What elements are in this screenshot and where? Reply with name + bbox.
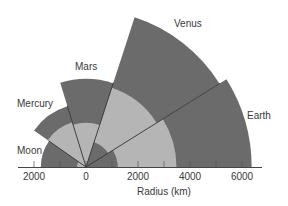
label-mars: Mars — [75, 62, 97, 72]
tick-label: 2000 — [23, 172, 45, 182]
tick-label: 6000 — [231, 172, 253, 182]
label-earth: Earth — [247, 111, 271, 121]
axis-title: Radius (km) — [137, 187, 191, 197]
label-mercury: Mercury — [17, 99, 53, 109]
tick-label: 2000 — [127, 172, 149, 182]
label-moon: Moon — [17, 146, 42, 156]
planet-sectors — [34, 17, 252, 167]
tick-label: 4000 — [179, 172, 201, 182]
label-venus: Venus — [174, 19, 202, 29]
tick-label: 0 — [83, 172, 89, 182]
